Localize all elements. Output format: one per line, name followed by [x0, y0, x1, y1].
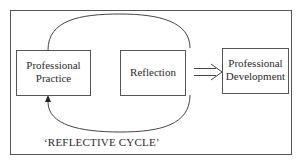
- node-reflection: Reflection: [121, 51, 186, 96]
- cycle-arc-top: [48, 14, 190, 50]
- node-label-line: Professional: [228, 57, 282, 69]
- node-label-line: Reflection: [130, 66, 176, 78]
- node-label-line: Development: [226, 70, 285, 82]
- diagram-caption: ‘REFLECTIVE CYCLE’: [44, 136, 160, 148]
- node-professional-development: Professional Development: [223, 49, 289, 94]
- node-label-line: Professional: [26, 59, 80, 71]
- cycle-arrowhead-icon: [45, 95, 51, 102]
- arrowhead-icon: [211, 64, 222, 80]
- node-professional-practice: Professional Practice: [17, 51, 91, 96]
- node-label-line: Practice: [36, 72, 72, 84]
- cycle-arc-bottom: [48, 95, 190, 132]
- reflective-cycle-diagram: Professional Practice Reflection Profess…: [0, 0, 301, 168]
- double-arrow: [194, 64, 222, 80]
